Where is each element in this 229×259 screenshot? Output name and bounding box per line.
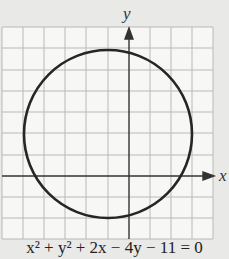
x-axis-label: x — [218, 166, 227, 185]
coordinate-plane: y x — [0, 0, 229, 259]
y-axis-label: y — [121, 4, 131, 23]
circle-equation: x² + y² + 2x − 4y − 11 = 0 — [0, 238, 229, 258]
